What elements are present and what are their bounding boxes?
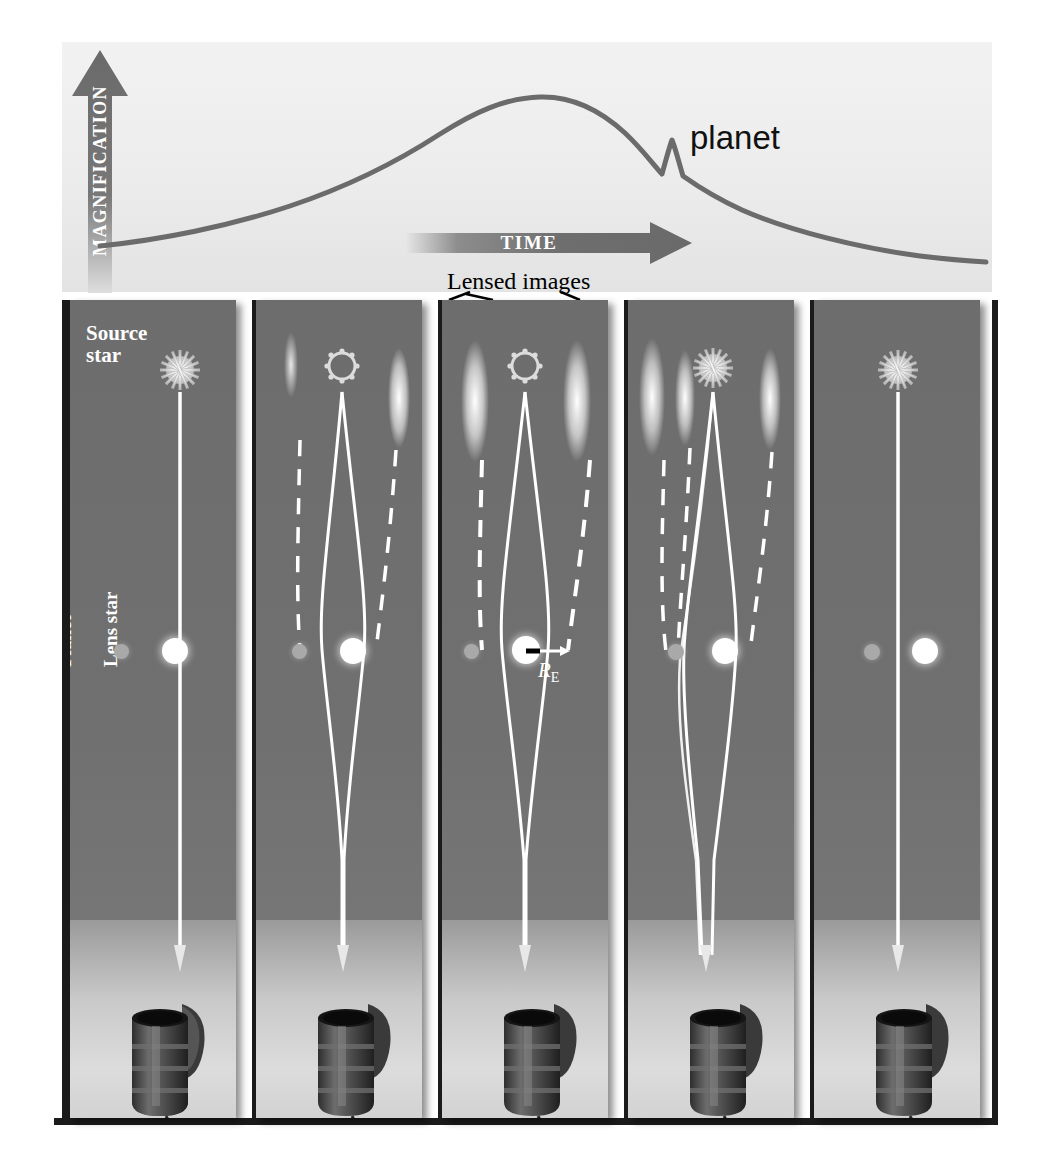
source-star (320, 344, 364, 388)
space-telescope (628, 960, 794, 1118)
lensed-image-arc (458, 338, 492, 464)
panel-5 (814, 300, 980, 1118)
lens-star-dot (912, 638, 938, 664)
lens-star-dot (340, 638, 366, 664)
space-telescope (70, 960, 236, 1118)
planet-dot (292, 644, 307, 659)
lens-star-dot (162, 638, 188, 664)
planet-spike-label: planet (690, 119, 780, 157)
source-star-label: Source star (86, 322, 147, 366)
panel-3: RE (442, 300, 608, 1118)
lensed-image-arc (756, 346, 784, 452)
source-star (158, 348, 202, 392)
lens-star-dot (712, 638, 738, 664)
panel-2 (256, 300, 422, 1118)
space-telescope (256, 960, 422, 1118)
source-star (503, 344, 547, 388)
planet-dot (114, 644, 129, 659)
einstein-radius-label: RE (538, 658, 559, 686)
lensed-image-arc (282, 330, 300, 400)
lensed-image-arc (560, 338, 594, 464)
figure-root: MAGNIFICATION TIME planet Lensed images (0, 0, 1049, 1161)
planet-label-rotated: Planet (70, 615, 76, 667)
source-star (691, 346, 735, 390)
time-axis-label: TIME (404, 220, 654, 266)
space-telescope (442, 960, 608, 1118)
light-curve-panel: MAGNIFICATION TIME planet Lensed images (0, 0, 1049, 300)
planet-dot (864, 644, 880, 660)
planet-dot (464, 644, 479, 659)
panel-strip: Source star Planet Lens star (62, 300, 992, 1118)
planet-dot (668, 644, 684, 660)
strip-base-bar (54, 1118, 998, 1125)
panel-1: Source star Planet Lens star (70, 300, 236, 1118)
lensed-image-arc (636, 336, 668, 458)
lensed-image-arc (386, 346, 412, 450)
lensed-images-label: Lensed images (447, 268, 590, 295)
source-star (876, 348, 920, 392)
space-telescope (814, 960, 980, 1118)
panel-4 (628, 300, 794, 1118)
